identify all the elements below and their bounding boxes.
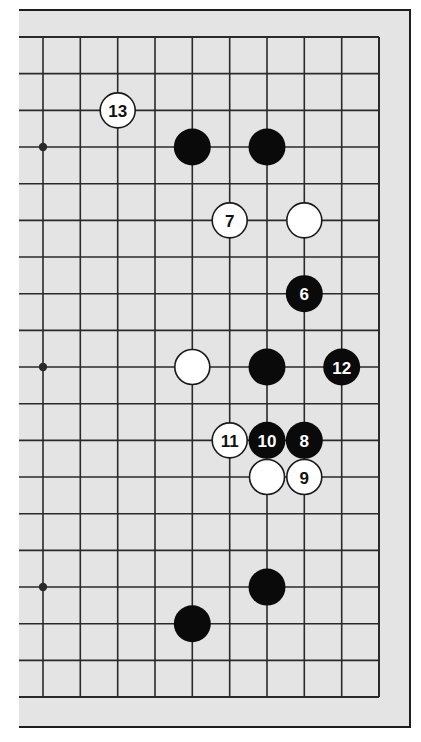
- star-point: [39, 363, 47, 371]
- move-number: 12: [332, 359, 351, 378]
- move-number: 10: [258, 432, 277, 451]
- white-stone: [250, 460, 285, 495]
- white-stone: [175, 350, 210, 385]
- black-stone-8: 8: [286, 422, 323, 459]
- move-number: 11: [221, 432, 239, 451]
- star-point: [39, 143, 47, 151]
- white-stone-icon: [287, 203, 322, 238]
- white-stone-13: 13: [100, 93, 135, 128]
- black-stone-icon: [174, 605, 211, 642]
- black-stone: [249, 569, 286, 606]
- white-stone: [287, 203, 322, 238]
- black-stone: [249, 349, 286, 386]
- black-stone: [174, 605, 211, 642]
- black-stone-icon: [249, 129, 286, 166]
- white-stone-7: 7: [212, 203, 247, 238]
- black-stone-icon: [249, 569, 286, 606]
- white-stone-icon: [250, 460, 285, 495]
- black-stone: [174, 129, 211, 166]
- black-stone-12: 12: [323, 349, 360, 386]
- star-point: [39, 583, 47, 591]
- white-stone-9: 9: [287, 460, 322, 495]
- move-number: 7: [225, 212, 234, 231]
- black-stone-6: 6: [286, 275, 323, 312]
- go-board: 137612111089: [0, 0, 421, 742]
- black-stone-10: 10: [249, 422, 286, 459]
- black-stone-icon: [249, 349, 286, 386]
- white-stone-11: 11: [212, 423, 247, 458]
- black-stone-icon: [174, 129, 211, 166]
- move-number: 13: [108, 102, 127, 121]
- white-stone-icon: [175, 350, 210, 385]
- move-number: 6: [300, 285, 309, 304]
- move-number: 8: [300, 432, 309, 451]
- move-number: 9: [300, 469, 309, 488]
- black-stone: [249, 129, 286, 166]
